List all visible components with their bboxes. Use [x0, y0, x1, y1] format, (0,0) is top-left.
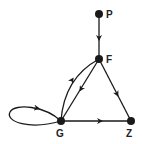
edge-f-z [99, 59, 131, 121]
graph-diagram: P F G Z [0, 0, 142, 144]
node-g [57, 117, 65, 125]
edge-f-g [61, 59, 99, 121]
node-f [95, 55, 103, 63]
label-g: G [56, 128, 64, 139]
node-z [127, 117, 135, 125]
node-p [95, 10, 103, 18]
label-p: P [106, 9, 113, 20]
edge-g-g-loop [9, 107, 61, 125]
label-z: Z [126, 128, 132, 139]
label-f: F [106, 54, 112, 65]
